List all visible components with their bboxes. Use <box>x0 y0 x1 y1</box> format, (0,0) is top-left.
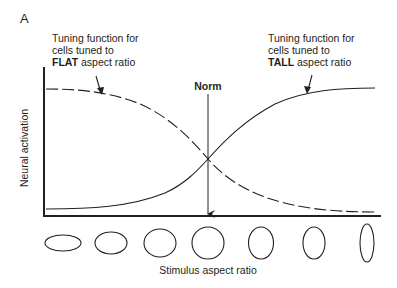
diagram-graphics <box>0 0 397 288</box>
stimulus-row <box>45 224 374 262</box>
flat-tuning-curve <box>46 89 375 212</box>
figure-panel: A Tuning function for cells tuned to FLA… <box>0 0 397 288</box>
stimulus-ellipse-2 <box>95 232 127 254</box>
stimulus-ellipse-6 <box>303 227 325 259</box>
stimulus-ellipse-4 <box>192 227 224 259</box>
stimulus-ellipse-3 <box>144 229 176 257</box>
stimulus-ellipse-1 <box>45 235 81 251</box>
stimulus-ellipse-7 <box>360 224 374 262</box>
tall-tuning-curve <box>46 88 375 209</box>
stimulus-ellipse-5 <box>249 227 274 259</box>
